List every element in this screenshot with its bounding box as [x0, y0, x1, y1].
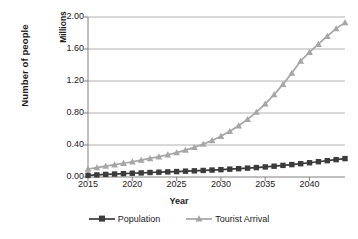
series-marker-0	[103, 172, 108, 177]
x-tick-label: 2015	[70, 179, 106, 189]
series-marker-0	[298, 161, 303, 166]
y-tick-label: 1.20	[54, 76, 84, 85]
series-marker-0	[165, 169, 170, 174]
series-marker-0	[121, 171, 126, 176]
y-tick-label: 0.80	[54, 108, 84, 117]
series-marker-0	[245, 165, 250, 170]
y-tick-label: 1.60	[54, 44, 84, 53]
series-marker-0	[183, 168, 188, 173]
series-marker-0	[112, 171, 117, 176]
series-marker-0	[174, 169, 179, 174]
legend-triangle-marker-icon	[186, 213, 212, 225]
series-marker-0	[94, 172, 99, 177]
series-marker-0	[333, 157, 338, 162]
series-marker-1	[342, 19, 349, 25]
x-tick-label: 2025	[159, 179, 195, 189]
series-marker-0	[254, 165, 259, 170]
chart-container: Number of people Millions 0.000.400.801.…	[0, 0, 358, 239]
series-marker-0	[271, 164, 276, 169]
x-axis-title: Year	[0, 196, 358, 206]
series-marker-0	[130, 171, 135, 176]
series-marker-0	[342, 156, 347, 161]
legend-item-0[interactable]: Population	[89, 213, 161, 225]
series-marker-0	[201, 168, 206, 173]
legend-square-marker-icon	[89, 213, 115, 225]
y-tick-label: 2.00	[54, 12, 84, 21]
series-line-0	[88, 159, 345, 176]
x-tick-label: 2020	[114, 179, 150, 189]
series-marker-0	[236, 166, 241, 171]
series-marker-0	[156, 170, 161, 175]
chart-legend: PopulationTourist Arrival	[0, 213, 358, 225]
series-line-1	[88, 23, 345, 169]
legend-label: Tourist Arrival	[215, 214, 269, 224]
x-tick-label: 2035	[247, 179, 283, 189]
series-marker-0	[227, 166, 232, 171]
y-tick-label: 0.40	[54, 140, 84, 149]
legend-label: Population	[118, 214, 161, 224]
series-marker-0	[316, 159, 321, 164]
x-tick-label: 2040	[292, 179, 328, 189]
series-marker-0	[263, 164, 268, 169]
legend-item-1[interactable]: Tourist Arrival	[186, 213, 269, 225]
y-axis-title: Number of people	[19, 0, 30, 136]
series-marker-0	[218, 167, 223, 172]
series-marker-0	[192, 168, 197, 173]
x-tick-label: 2030	[203, 179, 239, 189]
series-marker-0	[325, 158, 330, 163]
series-marker-0	[307, 160, 312, 165]
series-marker-0	[147, 170, 152, 175]
series-marker-0	[138, 170, 143, 175]
series-marker-0	[280, 163, 285, 168]
series-marker-1	[218, 133, 225, 139]
series-marker-0	[85, 173, 90, 178]
series-marker-0	[289, 162, 294, 167]
series-marker-0	[209, 167, 214, 172]
